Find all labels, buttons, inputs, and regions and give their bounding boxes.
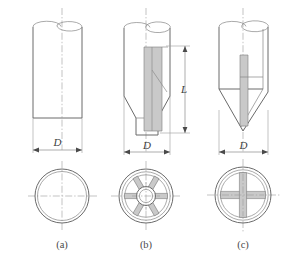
cylinder-top-arc-right-lower-b [146, 22, 170, 29]
caption-c: (c) [237, 239, 249, 251]
dimension-arrow-right-b [164, 150, 170, 155]
cone-left-outer-c [219, 89, 243, 131]
elevation-c [219, 21, 268, 131]
plan-view-b [111, 161, 181, 231]
caption-a: (a) [56, 239, 68, 251]
dimension-label-diameter-a: D [53, 136, 62, 148]
panel-c: D (c) [207, 8, 280, 251]
cylinder-top-arc-right-b [146, 26, 170, 33]
dimension-label-diameter-b: D [142, 139, 151, 151]
dimension-label-diameter-c: D [239, 139, 248, 151]
technical-drawing-figure: D (a) [0, 0, 299, 260]
elevation-a [33, 21, 82, 118]
cylinder-top-arc-right-lower-c [242, 21, 268, 28]
internal-vane-plate-c [240, 55, 248, 126]
dimension-arrow-top-b [183, 46, 188, 52]
dimension-length-b: L [160, 46, 190, 133]
dimension-arrow-right-a [76, 148, 82, 153]
internal-vane-plate-b [144, 47, 162, 131]
cylinder-top-arc-right-lower-a [57, 22, 82, 28]
dimension-arrow-left-c [219, 150, 225, 155]
cone-left-edge-b [124, 96, 136, 118]
caption-b: (b) [140, 239, 153, 251]
plan-view-a [28, 161, 97, 230]
drawing-canvas: D (a) [0, 0, 299, 260]
panel-a: D (a) [28, 8, 97, 251]
plan-view-c [207, 159, 280, 232]
dimension-arrow-left-a [33, 148, 39, 153]
panel-b: L D [111, 8, 190, 251]
dimension-arrow-left-b [124, 150, 130, 155]
dimension-diameter-a: D [33, 118, 82, 153]
dimension-arrow-bottom-b [183, 127, 188, 133]
elevation-b [124, 22, 170, 135]
dimension-arrow-right-c [262, 150, 268, 155]
dimension-label-length-b: L [180, 83, 187, 95]
